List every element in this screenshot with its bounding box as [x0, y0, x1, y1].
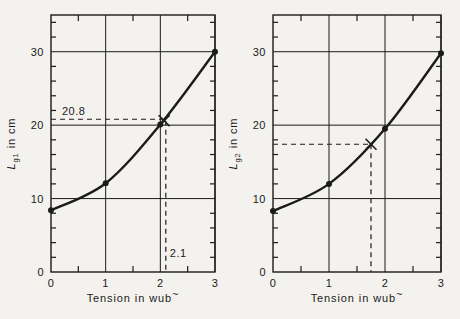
figure: 0102030012320.82.1Lg1 in cmTension in wu…	[0, 0, 460, 319]
h-dash-value-label: 20.8	[62, 105, 85, 117]
y-tick-label: 0	[259, 266, 266, 278]
x-tick-label: 2	[157, 277, 164, 289]
plot-frame	[51, 15, 215, 272]
y-axis-title: Lg2 in cm	[227, 118, 242, 170]
dual-line-chart: 0102030012320.82.1Lg1 in cmTension in wu…	[0, 0, 460, 319]
y-tick-label: 30	[31, 46, 44, 58]
data-point-dot	[438, 50, 444, 56]
data-point-dot	[326, 181, 332, 187]
x-tick-label: 3	[212, 277, 219, 289]
data-point-dot	[212, 49, 218, 55]
y-tick-label: 10	[31, 193, 44, 205]
y-tick-label: 30	[253, 46, 266, 58]
y-tick-label: 20	[253, 119, 266, 131]
y-tick-label: 10	[253, 193, 266, 205]
chart-left: 0102030012320.82.1Lg1 in cmTension in wu…	[5, 15, 218, 304]
v-dash-value-label: 2.1	[170, 247, 187, 259]
data-point-dot	[382, 126, 388, 132]
chart-right: 01020300123Lg2 in cmTension in wub~	[227, 15, 444, 304]
x-axis-title: Tension in wub~	[87, 288, 180, 304]
y-tick-label: 0	[37, 266, 44, 278]
y-tick-label: 20	[31, 119, 44, 131]
data-point-dot	[270, 208, 276, 214]
x-tick-label: 0	[48, 277, 55, 289]
x-tick-label: 3	[438, 277, 445, 289]
x-axis-title: Tension in wub~	[311, 288, 404, 304]
y-axis-title: Lg1 in cm	[5, 118, 20, 170]
x-tick-label: 2	[382, 277, 389, 289]
x-tick-label: 0	[270, 277, 277, 289]
data-point-dot	[103, 180, 109, 186]
data-curve	[51, 52, 215, 211]
x-tick-label: 1	[102, 277, 109, 289]
plot-frame	[273, 15, 441, 272]
data-curve	[273, 53, 441, 211]
data-point-dot	[48, 207, 54, 213]
x-tick-label: 1	[326, 277, 333, 289]
